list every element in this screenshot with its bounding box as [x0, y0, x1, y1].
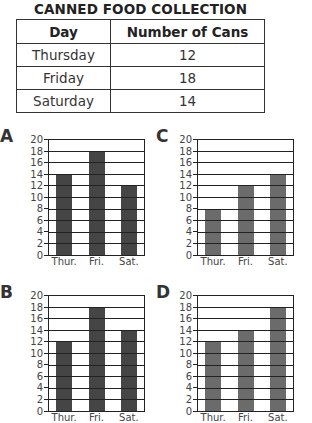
y-tick-label: 2 — [23, 395, 43, 405]
gridline — [198, 365, 293, 366]
y-tick-label: 6 — [23, 372, 43, 382]
y-tick-label: 6 — [23, 216, 43, 226]
y-tick-label: 4 — [172, 383, 192, 393]
y-tick-mark — [44, 243, 48, 244]
table-row: Thursday 12 — [17, 44, 265, 67]
y-tick-label: 2 — [23, 239, 43, 249]
gridline — [49, 185, 144, 186]
chart-option-label: A — [0, 126, 13, 146]
gridline — [49, 388, 144, 389]
gridline — [49, 209, 144, 210]
y-tick-mark — [44, 341, 48, 342]
y-tick-mark — [193, 162, 197, 163]
y-tick-label: 10 — [172, 193, 192, 203]
x-tick-label: Thur. — [198, 412, 228, 423]
gridline — [198, 376, 293, 377]
y-tick-mark — [44, 220, 48, 221]
y-tick-mark — [193, 243, 197, 244]
y-tick-mark — [193, 197, 197, 198]
y-tick-mark — [193, 364, 197, 365]
y-tick-label: 4 — [23, 227, 43, 237]
plot-area — [197, 295, 294, 412]
cell-day: Friday — [17, 67, 111, 90]
x-tick-label: Sat. — [114, 412, 144, 423]
x-tick-label: Sat. — [263, 256, 293, 267]
y-tick-label: 0 — [23, 251, 43, 261]
x-tick-label: Sat. — [263, 412, 293, 423]
x-tick-label: Thur. — [198, 256, 228, 267]
gridline — [198, 243, 293, 244]
cell-day: Saturday — [17, 90, 111, 113]
gridline — [49, 399, 144, 400]
y-tick-mark — [193, 220, 197, 221]
y-tick-mark — [193, 318, 197, 319]
y-tick-label: 18 — [172, 147, 192, 157]
page-title: CANNED FOOD COLLECTION — [0, 1, 281, 17]
y-tick-mark — [193, 387, 197, 388]
y-tick-mark — [44, 307, 48, 308]
gridline — [198, 399, 293, 400]
y-tick-label: 12 — [23, 181, 43, 191]
cell-cans: 14 — [111, 90, 265, 113]
chart-option-label: B — [0, 282, 13, 302]
y-tick-mark — [44, 162, 48, 163]
y-tick-mark — [193, 399, 197, 400]
gridline — [49, 174, 144, 175]
y-tick-mark — [193, 307, 197, 308]
y-tick-mark — [44, 208, 48, 209]
y-tick-mark — [193, 174, 197, 175]
y-tick-label: 16 — [172, 158, 192, 168]
y-tick-label: 4 — [23, 383, 43, 393]
gridline — [198, 341, 293, 342]
y-tick-mark — [44, 185, 48, 186]
chart-option-label: D — [156, 282, 170, 302]
canned-food-table: Day Number of Cans Thursday 12 Friday 18… — [16, 19, 265, 113]
gridline — [49, 353, 144, 354]
table-row: Friday 18 — [17, 67, 265, 90]
y-tick-label: 14 — [23, 170, 43, 180]
y-tick-label: 20 — [23, 135, 43, 145]
y-tick-label: 18 — [172, 303, 192, 313]
gridline — [198, 174, 293, 175]
chart-d: D 02468101214161820Thur.Fri.Sat. — [149, 282, 299, 422]
chart-a: A 02468101214161820Thur.Fri.Sat. — [0, 126, 150, 266]
y-tick-label: 8 — [172, 204, 192, 214]
table-row: Saturday 14 — [17, 90, 265, 113]
x-tick-label: Thur. — [49, 256, 79, 267]
y-tick-mark — [44, 330, 48, 331]
y-tick-label: 2 — [172, 239, 192, 249]
gridline — [49, 376, 144, 377]
plot-area — [48, 139, 145, 256]
x-tick-label: Fri. — [82, 256, 112, 267]
gridline — [49, 318, 144, 319]
y-tick-mark — [44, 197, 48, 198]
y-tick-label: 14 — [23, 326, 43, 336]
x-tick-label: Sat. — [114, 256, 144, 267]
y-tick-mark — [44, 231, 48, 232]
y-tick-mark — [44, 376, 48, 377]
y-tick-label: 8 — [172, 360, 192, 370]
y-tick-label: 0 — [172, 407, 192, 417]
gridline — [49, 232, 144, 233]
y-tick-label: 14 — [172, 170, 192, 180]
y-tick-label: 18 — [23, 147, 43, 157]
y-tick-label: 8 — [23, 204, 43, 214]
plot-area — [197, 139, 294, 256]
bar-fri — [89, 151, 105, 255]
y-tick-label: 20 — [23, 291, 43, 301]
gridline — [198, 232, 293, 233]
x-tick-label: Fri. — [231, 256, 261, 267]
gridline — [198, 220, 293, 221]
x-tick-label: Thur. — [49, 412, 79, 423]
y-tick-mark — [193, 341, 197, 342]
y-tick-mark — [44, 387, 48, 388]
y-tick-label: 16 — [23, 158, 43, 168]
bar-fri — [89, 307, 105, 411]
y-tick-label: 10 — [23, 193, 43, 203]
y-tick-mark — [44, 255, 48, 256]
cell-day: Thursday — [17, 44, 111, 67]
y-tick-mark — [193, 185, 197, 186]
cell-cans: 12 — [111, 44, 265, 67]
table-header-row: Day Number of Cans — [17, 20, 265, 44]
gridline — [198, 318, 293, 319]
